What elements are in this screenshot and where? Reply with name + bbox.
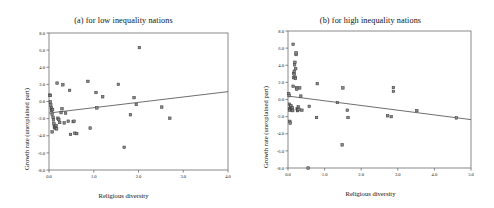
panel-a-x-axis-title: Religious diversity <box>0 192 247 199</box>
data-point <box>61 108 64 111</box>
y-tick-label: -8.0 <box>277 166 285 171</box>
data-point <box>294 77 297 80</box>
y-tick-label: 2.0 <box>39 82 45 87</box>
data-point <box>62 84 64 87</box>
data-point <box>68 89 71 92</box>
y-tick-label: -4.0 <box>277 131 285 136</box>
y-tick-label: -2.0 <box>38 116 46 121</box>
data-point <box>416 109 419 112</box>
y-tick-label: 8.0 <box>278 29 284 34</box>
data-point <box>73 120 76 123</box>
data-point <box>347 116 350 119</box>
data-point <box>386 115 389 118</box>
data-point <box>336 101 339 104</box>
data-point <box>52 116 55 119</box>
data-point <box>51 131 54 134</box>
data-point <box>51 108 54 111</box>
data-point <box>315 116 318 119</box>
data-point <box>63 122 66 125</box>
y-tick-label: 6.0 <box>278 46 284 51</box>
y-tick-label: 4.0 <box>278 63 284 68</box>
data-point <box>76 132 79 135</box>
data-point <box>56 82 59 85</box>
data-point <box>392 86 395 89</box>
data-point <box>297 106 300 109</box>
data-point <box>289 122 292 125</box>
x-tick-label: 0.0 <box>46 174 52 179</box>
x-tick-label: 4.0 <box>225 174 231 179</box>
data-point <box>60 111 63 114</box>
data-point <box>308 105 311 108</box>
y-tick-label: 0.0 <box>39 99 45 104</box>
data-point <box>129 114 132 117</box>
data-point <box>292 85 295 88</box>
x-tick-label: 2.0 <box>358 172 364 177</box>
data-point <box>293 64 296 67</box>
data-point <box>101 96 104 99</box>
y-tick-label: 4.0 <box>39 65 45 70</box>
data-point <box>96 107 99 110</box>
data-point <box>58 121 61 124</box>
y-tick-label: 8.0 <box>39 31 45 36</box>
x-tick-label: 2.0 <box>136 174 142 179</box>
x-tick-label: 4.0 <box>432 172 438 177</box>
data-point <box>307 167 310 170</box>
panel-b-y-axis-title: Growth rate (unexplained part) <box>262 86 269 168</box>
panel-low-inequality: (a) for low inequality nations 8.06.04.0… <box>0 0 247 208</box>
panel-a-y-axis-title: Growth rate (unexplained part) <box>23 88 30 170</box>
data-point <box>49 94 52 97</box>
data-point <box>295 52 298 55</box>
x-tick-label: 3.0 <box>395 172 401 177</box>
data-point <box>288 94 291 97</box>
data-point <box>390 115 393 118</box>
y-tick-label: -2.0 <box>277 114 285 119</box>
data-point <box>117 83 120 86</box>
x-tick-label: 3.0 <box>180 174 186 179</box>
figure-root: (a) for low inequality nations 8.06.04.0… <box>0 0 494 208</box>
data-point <box>293 73 296 76</box>
data-point <box>294 67 297 70</box>
data-point <box>51 113 54 116</box>
data-point <box>294 61 297 64</box>
trend-line <box>49 92 228 113</box>
y-tick-label: -8.0 <box>38 168 46 173</box>
x-tick-label: 0.0 <box>285 172 291 177</box>
data-point <box>67 120 70 123</box>
y-tick-label: 6.0 <box>39 48 45 53</box>
y-tick-label: 0.0 <box>278 97 284 102</box>
data-point <box>55 128 58 130</box>
data-point <box>138 46 141 49</box>
data-point <box>52 119 55 122</box>
data-point <box>50 104 53 107</box>
data-point <box>316 82 319 85</box>
data-point <box>69 133 72 136</box>
data-point <box>298 87 301 90</box>
data-point <box>89 127 92 130</box>
data-point <box>342 87 345 90</box>
y-tick-label: 2.0 <box>278 80 284 85</box>
scatter-plot-high-inequality: 8.06.04.02.00.0-2.0-4.0-6.0-8.00.01.02.0… <box>247 0 494 208</box>
x-tick-label: 1.0 <box>91 174 97 179</box>
data-point <box>123 146 126 149</box>
data-point <box>346 109 349 112</box>
x-tick-label: 5.0 <box>468 172 474 177</box>
data-point <box>49 101 52 104</box>
data-point <box>135 103 138 106</box>
data-point <box>341 144 344 147</box>
data-point <box>455 117 458 120</box>
data-point <box>291 106 294 109</box>
y-tick-label: -6.0 <box>38 151 46 156</box>
data-point <box>300 95 303 98</box>
data-point <box>169 117 172 120</box>
data-point <box>95 91 98 94</box>
data-point <box>55 124 58 127</box>
data-point <box>133 96 136 99</box>
y-tick-label: -6.0 <box>277 149 285 154</box>
data-point <box>87 80 90 83</box>
data-point <box>296 88 299 91</box>
y-tick-label: -4.0 <box>38 133 46 138</box>
data-point <box>293 70 296 73</box>
x-tick-label: 1.0 <box>322 172 328 177</box>
data-point <box>161 106 164 109</box>
data-point <box>292 43 295 46</box>
